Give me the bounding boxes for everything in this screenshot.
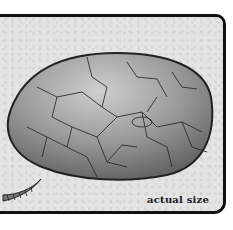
- claw-illustration: [3, 179, 41, 201]
- caption: actual size: [147, 194, 209, 205]
- egg-illustration: [0, 17, 223, 211]
- illustration-frame: actual size: [0, 14, 226, 214]
